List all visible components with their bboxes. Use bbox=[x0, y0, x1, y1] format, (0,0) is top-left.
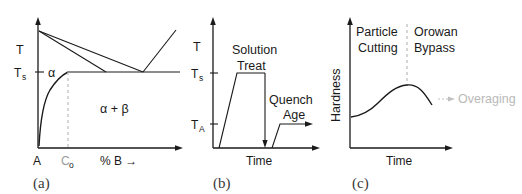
panel-b: T T s T A Solution Treat Quench Age Time… bbox=[191, 17, 320, 192]
panel-b-solution-treat-label-line2: Treat bbox=[237, 59, 266, 73]
panel-b-age-arrowhead bbox=[305, 121, 313, 127]
panel-a-caption: (a) bbox=[33, 175, 50, 192]
panel-b-ta-tick-label: T A bbox=[191, 118, 205, 134]
panel-b-ts-label-subscript: s bbox=[199, 73, 203, 83]
panel-a-ts-tick-label: T s bbox=[14, 66, 26, 82]
panel-b-ts-label-base: T bbox=[191, 67, 199, 81]
panel-a-alloy-composition-label: C o bbox=[61, 154, 74, 170]
panel-a: T T s α α + β A C o % B → (a) bbox=[14, 17, 183, 192]
panel-a-y-axis-arrowhead bbox=[35, 17, 41, 25]
panel-b-quench-label: Quench bbox=[269, 93, 313, 107]
panel-a-ts-label-base: T bbox=[14, 66, 22, 80]
panel-c-y-axis-label: Hardness bbox=[329, 69, 343, 123]
panel-c-hardness-curve bbox=[351, 85, 432, 117]
panel-b-quench-arrowhead bbox=[262, 140, 267, 148]
panel-b-age-profile bbox=[272, 124, 307, 148]
panel-c-x-axis-label: Time bbox=[386, 154, 413, 168]
three-panel-figure: T T s α α + β A C o % B → (a) bbox=[0, 0, 522, 194]
panel-c: Hardness Particle Cutting Orowan Bypass … bbox=[329, 17, 516, 192]
panel-a-alpha-beta-region-label: α + β bbox=[100, 102, 129, 116]
panel-b-x-axis-arrowhead bbox=[312, 145, 320, 151]
panel-c-x-axis-arrowhead bbox=[445, 145, 453, 151]
panel-b-ta-label-base: T bbox=[191, 118, 199, 132]
panel-c-right-region-label-line1: Orowan bbox=[414, 25, 458, 39]
panel-b-solution-treat-profile bbox=[219, 73, 265, 148]
panel-c-overaging-arrowhead bbox=[448, 97, 455, 102]
panel-b-y-axis-label: T bbox=[193, 40, 201, 54]
panel-a-origin-composition-label: A bbox=[33, 154, 41, 168]
panel-b-ts-tick-label: T s bbox=[191, 67, 203, 83]
panel-b-caption: (b) bbox=[213, 175, 231, 192]
panel-a-x-axis-label: % B → bbox=[100, 154, 137, 168]
panel-a-co-label-subscript: o bbox=[69, 160, 74, 170]
panel-c-overaging-label: Overaging bbox=[458, 92, 516, 106]
panel-a-ts-label-subscript: s bbox=[22, 72, 26, 82]
panel-b-ta-label-subscript: A bbox=[199, 124, 205, 134]
panel-c-y-axis-arrowhead bbox=[347, 17, 353, 25]
panel-b-age-label: Age bbox=[283, 108, 305, 122]
panel-a-alpha-region-label: α bbox=[48, 66, 55, 80]
figure-container: T T s α α + β A C o % B → (a) bbox=[0, 0, 522, 194]
panel-b-solution-treat-label-line1: Solution bbox=[232, 43, 277, 57]
panel-c-right-region-label-line2: Bypass bbox=[414, 41, 455, 55]
panel-b-x-axis-label: Time bbox=[246, 154, 273, 168]
panel-a-liquidus-right bbox=[143, 30, 176, 72]
panel-b-y-axis-arrowhead bbox=[210, 17, 216, 25]
panel-c-caption: (c) bbox=[352, 175, 369, 192]
panel-a-y-axis-label: T bbox=[16, 43, 24, 57]
panel-c-left-region-label-line2: Cutting bbox=[358, 41, 398, 55]
panel-c-left-region-label-line1: Particle bbox=[356, 25, 398, 39]
panel-a-x-axis-arrowhead bbox=[175, 145, 183, 151]
panel-a-solvus-curve bbox=[39, 72, 68, 146]
